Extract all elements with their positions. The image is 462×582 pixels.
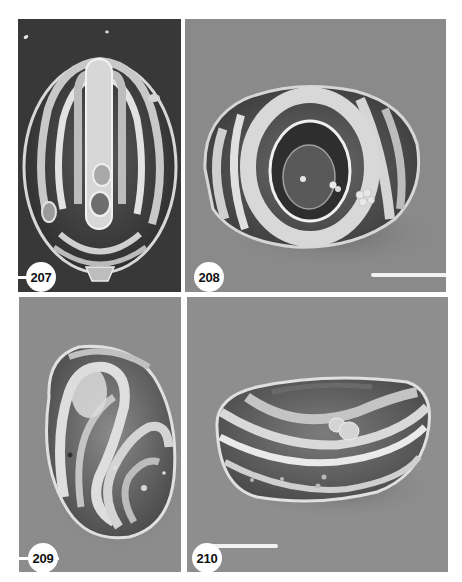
figure-label-209: 209 — [28, 543, 58, 572]
scale-bar — [371, 273, 446, 277]
panel-208: 208 — [185, 19, 446, 292]
pollen-grain-209-image — [19, 297, 181, 572]
pollen-grain-208-image — [185, 19, 446, 292]
figure-label-207: 207 — [26, 262, 56, 292]
panel-209: 209 — [19, 297, 181, 572]
pollen-grain-207-image — [18, 19, 181, 292]
figure-label-208: 208 — [194, 262, 224, 292]
panel-207: 207 — [18, 19, 181, 292]
panel-210: 210 — [187, 297, 448, 572]
figure-label-210: 210 — [192, 543, 222, 572]
pollen-grain-210-image — [187, 297, 448, 572]
